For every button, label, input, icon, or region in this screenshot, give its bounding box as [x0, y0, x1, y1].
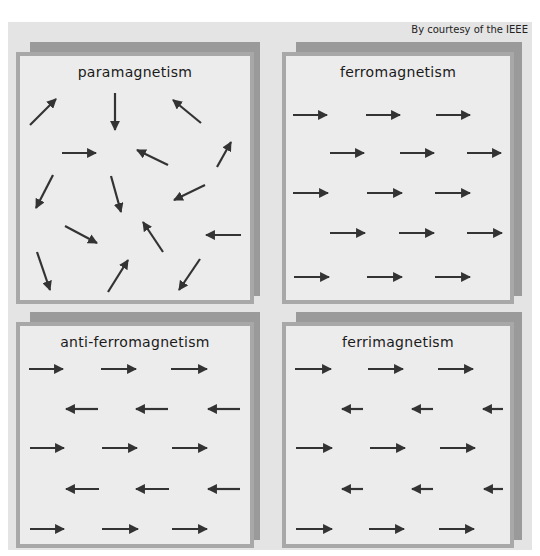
spin-arrow-icon [173, 100, 201, 123]
spin-arrow-icon [137, 150, 168, 165]
spin-arrows-layer [0, 0, 540, 556]
spin-arrow-icon [30, 99, 56, 125]
spin-arrow-icon [174, 185, 205, 200]
spin-arrow-icon [37, 252, 50, 290]
spin-arrow-icon [217, 142, 231, 167]
spin-arrow-icon [111, 176, 121, 212]
spin-arrow-icon [143, 222, 163, 252]
spin-arrow-icon [36, 175, 53, 208]
spin-arrow-icon [179, 259, 200, 290]
spin-arrow-icon [65, 226, 97, 243]
spin-arrow-icon [108, 260, 128, 292]
